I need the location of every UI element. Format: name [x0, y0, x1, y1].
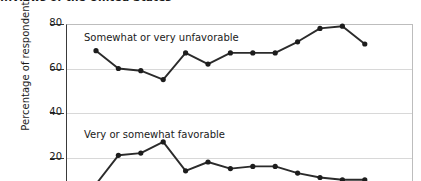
data-point: [362, 177, 367, 181]
data-point: [273, 50, 278, 55]
data-point: [340, 24, 345, 29]
series-label-favorable: Very or somewhat favorable: [84, 129, 225, 140]
markers-favorable: [93, 139, 367, 181]
data-point: [317, 175, 322, 180]
data-point: [138, 151, 143, 156]
data-point: [93, 48, 98, 53]
series-layer: [0, 0, 421, 181]
data-point: [228, 50, 233, 55]
data-point: [205, 159, 210, 164]
series-label-unfavorable: Somewhat or very unfavorable: [84, 32, 239, 43]
data-point: [250, 50, 255, 55]
data-point: [295, 171, 300, 176]
data-point: [228, 166, 233, 171]
chart-figure: ...views of the United States Percentage…: [0, 0, 421, 181]
data-point: [362, 41, 367, 46]
data-point: [161, 77, 166, 82]
data-point: [116, 66, 121, 71]
line-favorable: [96, 142, 365, 181]
data-point: [317, 26, 322, 31]
data-point: [161, 139, 166, 144]
data-point: [250, 164, 255, 169]
data-point: [340, 177, 345, 181]
data-point: [205, 62, 210, 67]
data-point: [273, 164, 278, 169]
data-point: [183, 168, 188, 173]
data-point: [138, 68, 143, 73]
data-point: [295, 39, 300, 44]
data-point: [116, 153, 121, 158]
data-point: [183, 50, 188, 55]
